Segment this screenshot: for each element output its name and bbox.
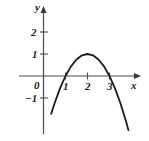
x-tick-label-2: 2 [85, 81, 91, 92]
x-tick-label-3: 3 [107, 81, 113, 92]
figure-container: y x 2 1 −1 0 1 2 3 [0, 0, 149, 141]
parabola-plot [0, 0, 149, 141]
y-tick-label-neg1: −1 [25, 93, 37, 104]
y-axis-label: y [35, 2, 40, 13]
y-tick-label-2: 2 [31, 27, 37, 38]
y-tick-label-1: 1 [32, 49, 38, 60]
parabola-curve [51, 54, 128, 130]
origin-label: 0 [34, 80, 40, 91]
y-axis-arrow-icon [41, 6, 47, 13]
x-tick-label-1: 1 [63, 81, 69, 92]
x-axis-label: x [131, 80, 137, 91]
